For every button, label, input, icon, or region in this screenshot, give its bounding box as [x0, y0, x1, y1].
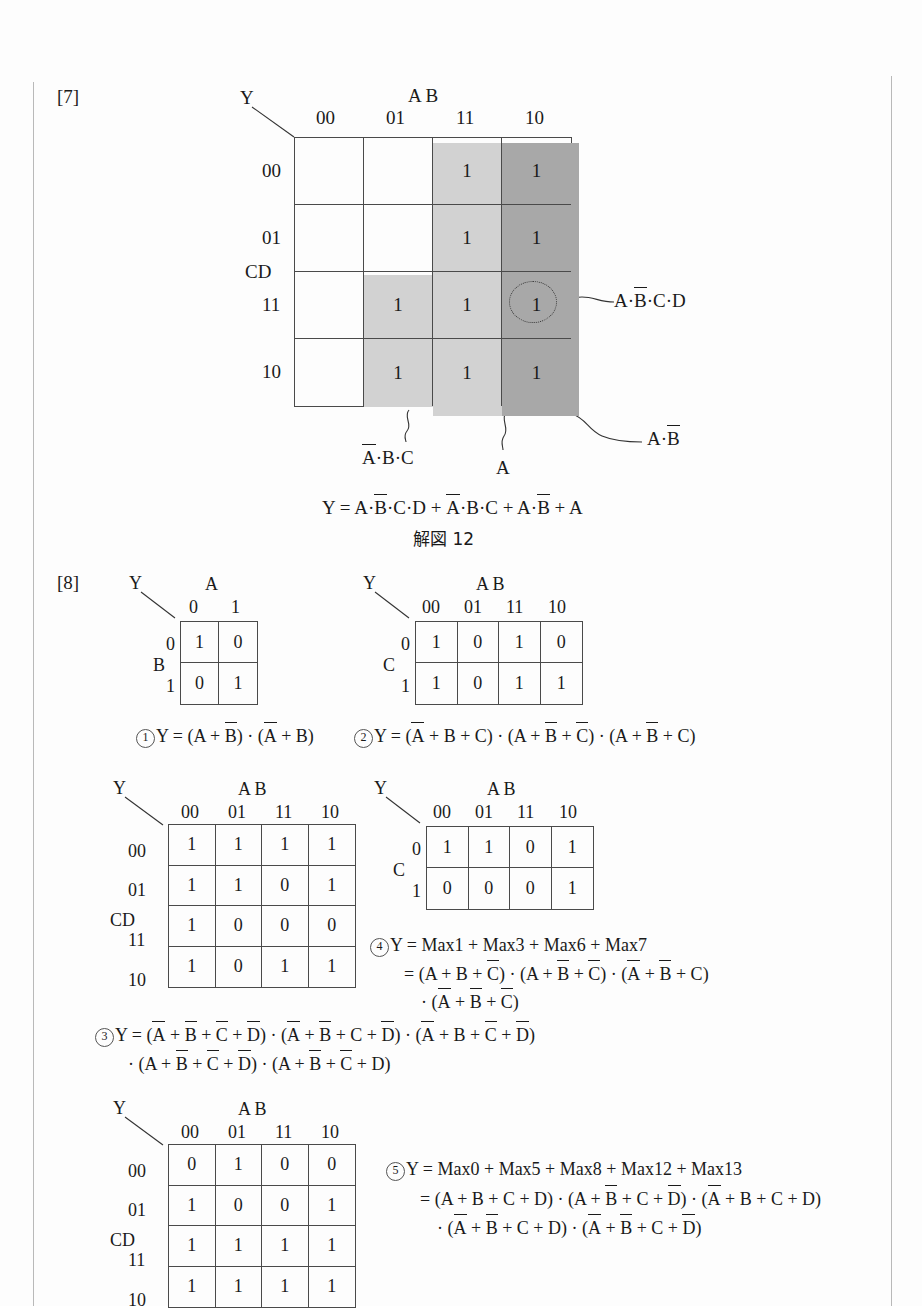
kmap4-cell-r1c0: 0 [427, 868, 469, 909]
map7-col-header-3: 10 [525, 107, 544, 129]
kmap-3: 1 1 1 1 1 1 0 1 1 0 0 0 1 0 1 1 [168, 824, 356, 988]
map3-row-group-label: CD [110, 910, 135, 931]
kmap5-cell-r0c2: 0 [262, 1145, 309, 1186]
map3-col-header-1: 01 [228, 802, 246, 823]
map3-equation-line1: 3Y = (A + B + C + D) · (A + B + C + D) ·… [95, 1021, 535, 1048]
leader-line-abar-b-c [396, 408, 420, 444]
map5-col-header-3: 10 [321, 1122, 339, 1143]
map4-col-group-label: A B [487, 779, 516, 800]
map7-result-equation: Y = A·B·C·D + A·B·C + A·B + A [322, 494, 583, 522]
page-rule-right [891, 76, 892, 1306]
map7-row-header-1: 01 [262, 227, 281, 249]
map2-col-header-1: 01 [464, 597, 482, 618]
kmap5-cell-r0c1: 1 [216, 1145, 263, 1186]
map2-col-header-3: 10 [548, 597, 566, 618]
map2-row-header-1: 1 [401, 676, 410, 697]
kmap7-cell-r3c0 [295, 339, 364, 406]
map5-col-group-label: A B [238, 1099, 267, 1120]
map5-row-header-2: 11 [128, 1250, 145, 1271]
kmap2-cell-r1c2: 1 [499, 663, 541, 704]
kmap2-cell-r0c1: 0 [458, 622, 500, 663]
kmap5-cell-r1c1: 0 [216, 1186, 263, 1227]
map4-equation-line2: = (A + B + C) · (A + B + C) · (A + B + C… [404, 960, 709, 987]
map3-corner-diagonal [123, 795, 167, 829]
annotation-a: A [496, 455, 510, 482]
kmap3-cell-r2c0: 1 [169, 906, 216, 947]
kmap5-cell-r1c3: 1 [309, 1186, 356, 1227]
kmap1-cell-r0c1: 0 [219, 622, 257, 663]
circled-number-4: 4 [370, 938, 389, 957]
kmap5-cell-r2c2: 1 [262, 1226, 309, 1267]
map4-col-header-2: 11 [517, 802, 534, 823]
circled-number-5: 5 [386, 1162, 405, 1181]
map5-equation-line1: 5Y = Max0 + Max5 + Max8 + Max12 + Max13 [386, 1156, 742, 1182]
map5-row-header-3: 10 [128, 1290, 146, 1311]
map2-col-group-label: A B [476, 574, 505, 595]
kmap3-cell-r2c1: 0 [216, 906, 263, 947]
map4-equation-line1: 4Y = Max1 + Max3 + Max6 + Max7 [370, 932, 647, 958]
kmap5-cell-r2c3: 1 [309, 1226, 356, 1267]
kmap4-cell-r0c3: 1 [552, 827, 594, 868]
map3-col-header-0: 00 [181, 802, 199, 823]
map3-row-header-1: 01 [128, 880, 146, 901]
kmap4-cell-r1c2: 0 [510, 868, 552, 909]
map5-row-header-1: 01 [128, 1200, 146, 1221]
map7-row-header-0: 00 [262, 160, 281, 182]
map2-col-header-0: 00 [422, 597, 440, 618]
map7-caption: 解図 12 [413, 525, 474, 550]
kmap7-cell-r2c3: 1 [502, 272, 571, 339]
map5-equation-line3: · (A + B + C + D) · (A + B + C + D) [437, 1214, 701, 1241]
kmap3-cell-r2c3: 0 [309, 906, 356, 947]
map3-row-header-2: 11 [128, 930, 145, 951]
map7-col-header-1: 01 [386, 107, 405, 129]
kmap5-cell-r3c1: 1 [216, 1267, 263, 1308]
kmap3-cell-r1c2: 0 [262, 866, 309, 907]
kmap3-cell-r3c0: 1 [169, 947, 216, 988]
map3-equation-line2: · (A + B + C + D) · (A + B + C + D) [128, 1050, 390, 1077]
kmap5-cell-r3c3: 1 [309, 1267, 356, 1308]
map4-corner-diagonal [384, 795, 424, 827]
map3-col-header-3: 10 [321, 802, 339, 823]
annotation-a-bbar: A·B [647, 425, 680, 453]
map3-row-header-0: 00 [128, 841, 146, 862]
kmap3-cell-r1c3: 1 [309, 866, 356, 907]
map3-col-header-2: 11 [275, 802, 292, 823]
map4-col-header-3: 10 [559, 802, 577, 823]
kmap2-cell-r0c2: 1 [499, 622, 541, 663]
map1-equation: 1Y = (A + B) · (A + B) [136, 722, 314, 749]
map7-row-group-label: CD [245, 261, 271, 283]
map4-equation-line3: · (A + B + C) [421, 988, 519, 1015]
map1-col-group-label: A [205, 574, 218, 595]
map5-col-header-0: 00 [181, 1122, 199, 1143]
kmap2-cell-r0c0: 1 [416, 622, 458, 663]
kmap5-cell-r1c0: 1 [169, 1186, 216, 1227]
annotation-a-bbar-c-d: A·B·C·D [614, 287, 686, 315]
map2-row-group-label: C [383, 655, 395, 676]
leader-line-a-bbar [570, 412, 646, 448]
map2-row-header-0: 0 [401, 634, 410, 655]
map5-equation-line2: = (A + B + C + D) · (A + B + C + D) · (A… [420, 1185, 821, 1212]
kmap3-cell-r0c3: 1 [309, 825, 356, 866]
kmap7-cell-r3c1: 1 [364, 339, 433, 406]
kmap4-cell-r0c2: 0 [510, 827, 552, 868]
map5-row-header-0: 00 [128, 1161, 146, 1182]
kmap3-cell-r1c0: 1 [169, 866, 216, 907]
kmap1-cell-r0c0: 1 [181, 622, 219, 663]
kmap3-cell-r2c2: 0 [262, 906, 309, 947]
kmap4-cell-r1c1: 0 [469, 868, 511, 909]
kmap7-cell-r0c1 [364, 138, 433, 205]
circled-number-1: 1 [136, 729, 155, 748]
annotation-abar-b-c: A·B·C [362, 444, 414, 472]
map1-corner-diagonal [139, 590, 179, 622]
map7-row-header-2: 11 [262, 294, 280, 316]
kmap3-cell-r1c1: 1 [216, 866, 263, 907]
map7-col-header-2: 11 [456, 107, 474, 129]
kmap7-cell-r0c3: 1 [502, 138, 571, 205]
kmap3-cell-r0c0: 1 [169, 825, 216, 866]
map5-col-header-1: 01 [228, 1122, 246, 1143]
kmap3-cell-r0c1: 1 [216, 825, 263, 866]
map7-col-group-label: A B [408, 85, 438, 107]
kmap5-cell-r1c2: 0 [262, 1186, 309, 1227]
kmap2-cell-r0c3: 0 [541, 622, 583, 663]
